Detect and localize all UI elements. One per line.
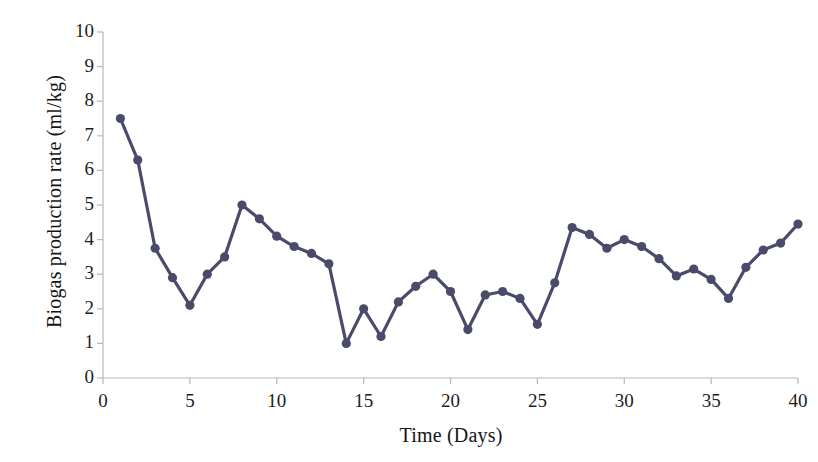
data-point: [637, 242, 646, 251]
chart-container: Biogas production rate (ml/kg) Time (Day…: [0, 0, 818, 462]
plot-area: [0, 0, 818, 462]
data-point: [793, 219, 802, 228]
data-point: [290, 242, 299, 251]
data-point: [689, 264, 698, 273]
data-series-biogas-production-rate: [116, 114, 803, 348]
data-point: [759, 245, 768, 254]
data-point: [550, 278, 559, 287]
data-point: [515, 294, 524, 303]
data-point: [324, 259, 333, 268]
series-line: [120, 119, 798, 344]
data-point: [602, 244, 611, 253]
data-point: [533, 320, 542, 329]
data-point: [463, 325, 472, 334]
data-point: [707, 275, 716, 284]
data-point: [654, 254, 663, 263]
data-point: [741, 263, 750, 272]
data-point: [116, 114, 125, 123]
data-point: [394, 297, 403, 306]
data-point: [185, 301, 194, 310]
data-point: [411, 282, 420, 291]
data-point: [620, 235, 629, 244]
data-point: [168, 273, 177, 282]
data-point: [481, 290, 490, 299]
data-point: [446, 287, 455, 296]
data-point: [498, 287, 507, 296]
data-point: [672, 271, 681, 280]
data-point: [359, 304, 368, 313]
data-point: [776, 238, 785, 247]
data-point: [724, 294, 733, 303]
data-point: [237, 200, 246, 209]
data-point: [272, 232, 281, 241]
data-point: [203, 270, 212, 279]
data-point: [568, 223, 577, 232]
data-point: [151, 244, 160, 253]
data-point: [307, 249, 316, 258]
data-point: [429, 270, 438, 279]
data-point: [342, 339, 351, 348]
data-point: [133, 155, 142, 164]
data-point: [376, 332, 385, 341]
axis-lines: [97, 32, 798, 384]
data-point: [585, 230, 594, 239]
data-point: [220, 252, 229, 261]
data-point: [255, 214, 264, 223]
